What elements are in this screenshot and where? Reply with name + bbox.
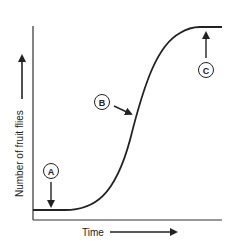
annotation-b: B — [95, 95, 132, 115]
growth-curve — [33, 27, 222, 210]
annotation-c: C — [199, 33, 214, 78]
svg-text:C: C — [203, 66, 210, 76]
svg-text:A: A — [48, 167, 55, 177]
y-axis-label: Number of fruit flies — [14, 110, 25, 197]
annotation-a: A — [44, 164, 59, 207]
x-axis-label: Time — [82, 227, 104, 238]
svg-text:B: B — [99, 98, 106, 108]
growth-curve-diagram: Number of fruit flies Time A B C — [0, 0, 234, 248]
arrow-b-icon — [114, 106, 131, 114]
